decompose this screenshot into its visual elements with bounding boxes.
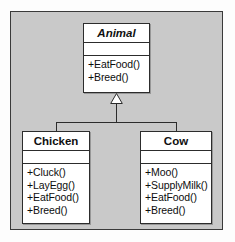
generalization-crossbar <box>56 122 177 123</box>
uml-attributes-compartment-cow <box>141 151 211 164</box>
uml-class-animal[interactable]: Animal +EatFood() +Breed() <box>83 23 150 93</box>
generalization-triangle-icon <box>110 93 123 104</box>
uml-operation: +Breed() <box>145 204 211 217</box>
uml-class-name-chicken: Chicken <box>23 132 89 151</box>
uml-class-chicken[interactable]: Chicken +Cluck() +LayEgg() +EatFood() +B… <box>22 131 90 224</box>
generalization-drop-cow <box>176 122 177 131</box>
uml-operation: +Cluck() <box>27 166 89 179</box>
uml-operation: +EatFood() <box>88 58 149 71</box>
uml-class-name-animal: Animal <box>84 24 149 43</box>
uml-operations-compartment-cow: +Moo() +SupplyMilk() +EatFood() +Breed() <box>141 164 211 218</box>
generalization-drop-chicken <box>56 122 57 131</box>
uml-operations-compartment-animal: +EatFood() +Breed() <box>84 56 149 85</box>
uml-operation: +Breed() <box>27 204 89 217</box>
generalization-stem <box>116 103 117 123</box>
uml-class-cow[interactable]: Cow +Moo() +SupplyMilk() +EatFood() +Bre… <box>140 131 212 224</box>
uml-class-name-cow: Cow <box>141 132 211 151</box>
uml-operation: +SupplyMilk() <box>145 179 211 192</box>
uml-operations-compartment-chicken: +Cluck() +LayEgg() +EatFood() +Breed() <box>23 164 89 218</box>
uml-operation: +EatFood() <box>27 191 89 204</box>
uml-operation: +Breed() <box>88 71 149 84</box>
uml-operation: +EatFood() <box>145 191 211 204</box>
uml-attributes-compartment-animal <box>84 43 149 56</box>
uml-operation: +Moo() <box>145 166 211 179</box>
uml-attributes-compartment-chicken <box>23 151 89 164</box>
uml-operation: +LayEgg() <box>27 179 89 192</box>
diagram-canvas: Animal +EatFood() +Breed() Chicken +Cluc… <box>10 11 223 230</box>
